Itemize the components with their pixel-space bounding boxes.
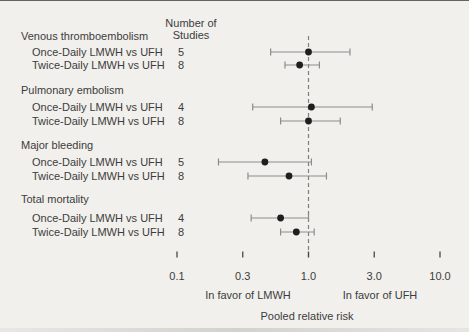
favor-ufh-label: In favor of UFH [343,289,418,301]
x-tick-label: 3.0 [367,270,382,282]
point-estimate-marker [293,229,300,236]
x-tick-label: 0.1 [169,270,184,282]
favor-lmwh-label: In favor of LMWH [205,289,291,301]
x-axis-title: Pooled relative risk [261,310,354,322]
point-estimate-marker [296,62,303,69]
point-estimate-marker [261,159,268,166]
point-estimate-marker [308,104,315,111]
forest-plot-svg [0,0,469,332]
x-tick-label: 1.0 [301,270,316,282]
point-estimate-marker [305,49,312,56]
forest-plot: Number of Studies Venous thromboembolism… [0,0,469,332]
x-tick-label: 0.3 [235,270,250,282]
point-estimate-marker [286,173,293,180]
point-estimate-marker [305,118,312,125]
x-tick-label: 10.0 [429,270,450,282]
scan-smudge-bottom [0,328,469,332]
point-estimate-marker [277,215,284,222]
